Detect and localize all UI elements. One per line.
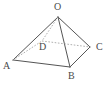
solid-edges-group — [13, 17, 90, 67]
vertex-label-c: C — [96, 42, 103, 52]
vertex-label-b: B — [68, 71, 75, 81]
edge-OD — [42, 17, 58, 41]
edge-OA — [13, 17, 58, 60]
edge-OB — [58, 17, 70, 67]
pyramid-geometry-svg — [0, 0, 110, 86]
pyramid-figure: OABCD — [0, 0, 110, 86]
edge-BC — [70, 47, 90, 67]
vertex-label-o: O — [54, 2, 61, 12]
edge-AB — [13, 60, 70, 67]
vertex-label-d: D — [39, 42, 46, 52]
edge-DC — [42, 41, 90, 47]
vertex-label-a: A — [3, 61, 10, 71]
edge-AD — [13, 41, 42, 60]
edge-OC — [58, 17, 90, 47]
